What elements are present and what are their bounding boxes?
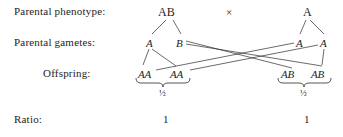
gamete-right-1: A <box>296 37 303 49</box>
parent-genotype-right: A <box>303 5 312 20</box>
proportion-right: ½ <box>300 88 307 98</box>
row-label-parental-phenotype: Parental phenotype: <box>14 5 105 17</box>
gamete-left-1: A <box>146 37 153 49</box>
row-label-offspring: Offspring: <box>43 67 91 79</box>
line-parent-left-to-gamete-b <box>173 20 181 34</box>
line-parent-right-to-gamete-a1 <box>300 20 306 34</box>
gamete-right-2: A <box>320 37 327 49</box>
offspring-genotype-3: AB <box>281 68 294 80</box>
genetic-cross-diagram: Parental phenotype: Parental gametes: Of… <box>0 0 343 137</box>
proportion-left: ½ <box>159 88 166 98</box>
gamete-left-2: B <box>176 37 183 49</box>
offspring-genotype-2: AA <box>170 68 183 80</box>
ratio-value-right: 1 <box>304 113 310 125</box>
offspring-genotype-1: AA <box>138 68 151 80</box>
line-parent-right-to-gamete-a2 <box>310 20 324 34</box>
offspring-genotype-4: AB <box>311 68 324 80</box>
ratio-value-left: 1 <box>163 113 169 125</box>
cross-multiplication-icon: × <box>226 6 232 18</box>
line-gamete-a-to-offspring-1 <box>143 49 149 65</box>
parent-genotype-left: AB <box>158 5 175 20</box>
line-parent-left-to-gamete-a <box>152 20 166 34</box>
row-label-ratio: Ratio: <box>14 113 42 125</box>
line-gamete-b-to-offspring-3 <box>186 41 292 68</box>
line-gamete-a-to-offspring-2 <box>152 49 176 66</box>
row-label-parental-gametes: Parental gametes: <box>14 36 95 48</box>
line-gamete-right-a2-to-offspring-4 <box>322 49 324 65</box>
